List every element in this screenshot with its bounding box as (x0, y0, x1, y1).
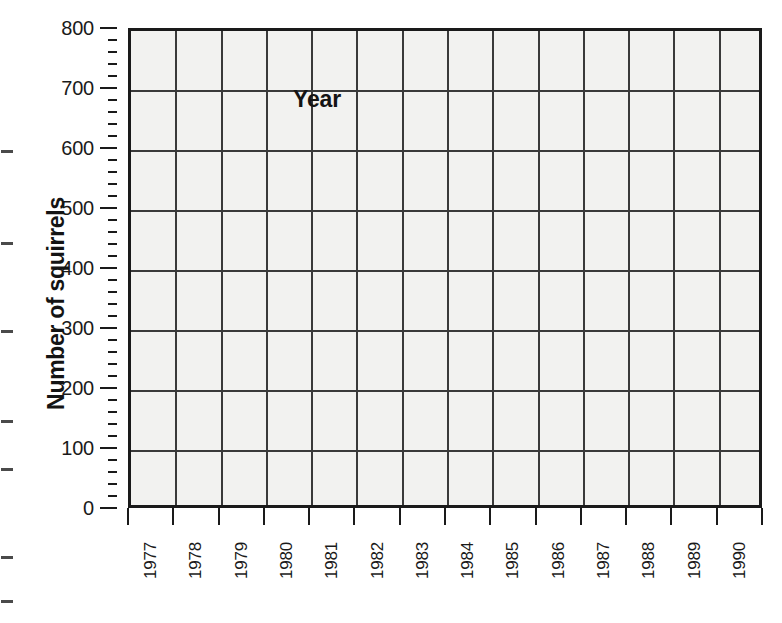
x-axis-tick-label-text: 1984 (459, 542, 476, 579)
y-axis-tick (100, 147, 117, 149)
y-axis-minor-tick (108, 459, 117, 461)
page-edge-mark (1, 330, 13, 333)
page-edge-mark (1, 556, 13, 559)
y-axis-minor-tick (108, 75, 117, 77)
x-axis-tick-label-text: 1986 (550, 542, 567, 579)
x-axis-title: Year (0, 86, 634, 113)
gridline-horizontal (131, 270, 759, 272)
y-axis-minor-tick (108, 135, 117, 137)
x-axis-tick-label-text: 1979 (233, 542, 250, 579)
x-axis-tick-label: 1988 (626, 530, 671, 592)
y-axis-minor-tick (108, 411, 117, 413)
gridline-horizontal (131, 330, 759, 332)
y-axis-title-label: Number of squirrels (43, 197, 70, 410)
y-axis-tick-label: 800 (61, 18, 94, 38)
x-axis-tick-label-text: 1989 (686, 542, 703, 579)
x-axis-tick (172, 508, 174, 525)
y-axis-minor-tick (108, 231, 117, 233)
gridline-vertical (673, 31, 675, 505)
x-axis-tick-label-text: 1983 (414, 542, 431, 579)
page-edge-mark (1, 242, 13, 245)
x-axis-tick (218, 508, 220, 525)
y-axis-minor-tick (108, 495, 117, 497)
x-axis-tick-label: 1983 (400, 530, 445, 592)
y-axis-minor-tick (108, 123, 117, 125)
y-axis-tick (100, 387, 117, 389)
y-axis-minor-tick (108, 51, 117, 53)
y-axis-minor-tick (108, 255, 117, 257)
x-axis-tick-label-text: 1977 (142, 542, 159, 579)
x-axis-tick-label: 1978 (173, 530, 218, 592)
y-axis-tick (100, 327, 117, 329)
x-axis-tick-label-text: 1987 (595, 542, 612, 579)
y-axis-minor-tick (108, 423, 117, 425)
y-axis-minor-tick (108, 363, 117, 365)
x-axis-tick-label: 1989 (671, 530, 716, 592)
x-axis-tick-label-text: 1988 (640, 542, 657, 579)
x-axis-tick (670, 508, 672, 525)
x-axis-tick (308, 508, 310, 525)
y-axis-tick (100, 207, 117, 209)
y-axis-minor-tick (108, 243, 117, 245)
page-edge-mark (1, 420, 13, 423)
y-axis-minor-tick (108, 183, 117, 185)
x-axis-tick (535, 508, 537, 525)
x-axis-tick-label-text: 1978 (187, 542, 204, 579)
x-axis-tick (716, 508, 718, 525)
x-axis-tick-label: 1990 (717, 530, 762, 592)
x-axis-tick-label: 1982 (354, 530, 399, 592)
y-axis-minor-tick (108, 399, 117, 401)
x-axis-tick (353, 508, 355, 525)
x-axis-tick-label-text: 1982 (369, 542, 386, 579)
x-axis-tick (761, 508, 763, 525)
x-axis-tick-label-text: 1990 (731, 542, 748, 579)
x-axis: 1977197819791980198119821983198419851986… (128, 508, 762, 623)
x-axis-tick (580, 508, 582, 525)
chart-figure: 8007006005004003002001000 Number of squi… (0, 0, 782, 623)
y-axis-minor-tick (108, 315, 117, 317)
y-axis-minor-tick (108, 195, 117, 197)
y-axis-minor-tick (108, 435, 117, 437)
y-axis-minor-tick (108, 483, 117, 485)
y-axis-minor-tick (108, 303, 117, 305)
y-axis-tick-label: 0 (83, 498, 94, 518)
page-edge-mark (1, 150, 13, 153)
y-axis-minor-tick (108, 339, 117, 341)
y-axis-minor-tick (108, 39, 117, 41)
x-axis-tick-label-text: 1985 (504, 542, 521, 579)
x-axis-tick-label: 1984 (445, 530, 490, 592)
x-axis-tick-label: 1981 (309, 530, 354, 592)
x-axis-tick-label: 1987 (581, 530, 626, 592)
gridline-horizontal (131, 390, 759, 392)
y-axis-minor-tick (108, 171, 117, 173)
x-axis-tick (263, 508, 265, 525)
x-axis-tick-label: 1985 (490, 530, 535, 592)
x-axis-tick-label: 1980 (264, 530, 309, 592)
gridline-horizontal (131, 150, 759, 152)
x-axis-tick-label: 1979 (219, 530, 264, 592)
y-axis-tick (100, 27, 117, 29)
x-axis-tick (399, 508, 401, 525)
x-axis-tick-label-text: 1981 (323, 542, 340, 579)
y-axis-minor-tick (108, 471, 117, 473)
y-axis-tick (100, 447, 117, 449)
y-axis-minor-tick (108, 375, 117, 377)
x-axis-tick-label: 1986 (536, 530, 581, 592)
x-axis-tick-label-text: 1980 (278, 542, 295, 579)
y-axis-minor-tick (108, 351, 117, 353)
x-axis-tick-label: 1977 (128, 530, 173, 592)
y-axis-tick (100, 507, 117, 509)
y-axis-tick (100, 267, 117, 269)
x-axis-tick (444, 508, 446, 525)
page-edge-mark (1, 468, 13, 471)
x-axis-tick (127, 508, 129, 525)
gridline-horizontal (131, 450, 759, 452)
x-axis-tick (489, 508, 491, 525)
y-axis-minor-tick (108, 291, 117, 293)
y-axis-minor-tick (108, 279, 117, 281)
gridline-horizontal (131, 210, 759, 212)
page-edge-mark (1, 600, 13, 603)
y-axis-minor-tick (108, 219, 117, 221)
y-axis-minor-tick (108, 63, 117, 65)
y-axis-title: Number of squirrels (36, 140, 76, 466)
